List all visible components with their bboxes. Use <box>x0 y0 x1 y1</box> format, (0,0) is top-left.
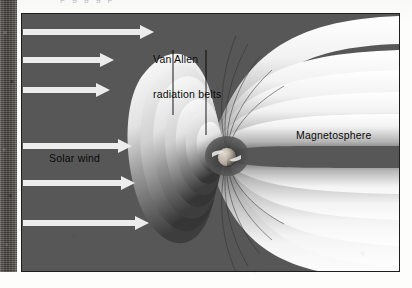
solar-wind-arrow-4 <box>23 139 132 153</box>
solar-wind-arrow-6 <box>23 216 149 230</box>
scanner-gutter-strip <box>0 0 17 272</box>
cut-off-body-text: p g g g p <box>60 0 390 3</box>
solar-wind-arrow-5 <box>23 176 135 190</box>
solar-wind-arrow-2 <box>23 53 114 67</box>
label-van-allen-line1: Van Allen <box>153 54 221 66</box>
label-van-allen-belts: Van Allen radiation belts <box>153 31 221 123</box>
magnetosphere-figure-panel: Van Allen radiation belts Solar wind Mag… <box>21 13 400 272</box>
solar-wind-arrow-3 <box>23 83 110 97</box>
scanned-page: p g g g p <box>0 0 412 288</box>
label-solar-wind: Solar wind <box>49 153 100 165</box>
label-magnetosphere: Magnetosphere <box>296 130 372 142</box>
label-van-allen-line2: radiation belts <box>153 89 221 101</box>
solar-wind-arrow-1 <box>23 25 154 39</box>
earth-sphere <box>218 148 237 167</box>
